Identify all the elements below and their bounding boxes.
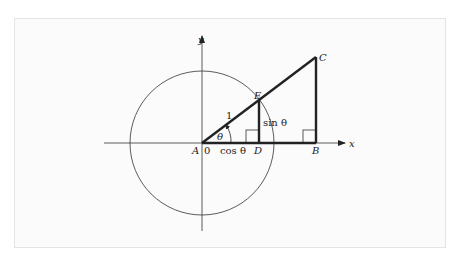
point-label-a: A [191,145,199,156]
right-angle-marker-d [246,130,259,143]
point-label-d: D [253,145,262,156]
point-label-b: B [311,145,319,156]
sin-theta-label: sin θ [263,117,287,128]
y-axis-label: y [197,34,204,45]
origin-label: 0 [204,145,210,156]
hypotenuse-label: 1 [226,110,232,121]
point-label-e: E [253,90,262,101]
cos-theta-label: cos θ [220,145,246,156]
angle-label-theta: θ [217,131,223,142]
x-axis-label: x [349,138,355,149]
right-angle-marker-b [303,130,316,143]
angle-arc-theta [226,125,231,143]
unit-circle-diagram: y x A 0 cos θ D B C E sin θ 1 θ [0,0,457,258]
point-label-c: C [319,52,327,63]
